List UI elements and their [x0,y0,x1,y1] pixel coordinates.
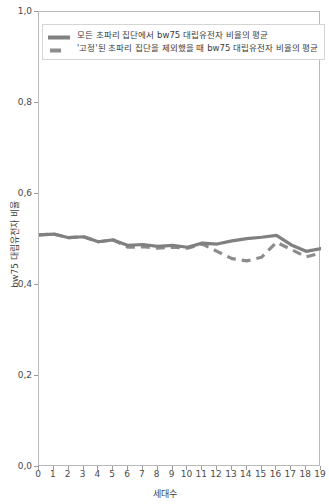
y-tick-label: 1,0 [0,7,32,16]
y-tick-mark [34,193,38,194]
legend-entry-all-populations: 모든 초파리 집단에서 bw75 대립유전자 비율의 평균 [48,29,318,42]
x-tick-mark [201,466,202,470]
x-tick-mark [127,466,128,470]
y-tick-mark [34,375,38,376]
x-tick-mark [231,466,232,470]
y-tick-mark [34,11,38,12]
x-tick-mark [157,466,158,470]
x-tick-mark [83,466,84,470]
x-tick-mark [38,466,39,470]
x-tick-mark [186,466,187,470]
legend-entry-excluding-fixed: '고정'된 초파리 집단을 제외했을 때 bw75 대립유전자 비율의 평균 [48,42,318,55]
x-tick-mark [112,466,113,470]
legend-swatch-dashed-icon [48,42,70,55]
y-tick-label: 0,4 [0,280,32,289]
x-tick-mark [290,466,291,470]
chart-figure: bw75 대립유전자 비율 세대수 모든 초파리 집단에서 bw75 대립유전자… [0,0,329,504]
y-tick-label: 0,6 [0,189,32,198]
series-line-all-populations [39,234,321,251]
x-tick-mark [320,466,321,470]
legend: 모든 초파리 집단에서 bw75 대립유전자 비율의 평균 '고정'된 초파리 … [42,24,325,60]
x-tick-mark [246,466,247,470]
y-tick-mark [34,102,38,103]
legend-label-all-populations: 모든 초파리 집단에서 bw75 대립유전자 비율의 평균 [77,29,268,42]
y-tick-mark [34,284,38,285]
plot-area [38,11,320,466]
x-tick-mark [261,466,262,470]
x-tick-mark [53,466,54,470]
x-tick-mark [216,466,217,470]
legend-label-excluding-fixed: '고정'된 초파리 집단을 제외했을 때 bw75 대립유전자 비율의 평균 [77,42,318,55]
y-tick-label: 0,2 [0,371,32,380]
series-canvas [39,12,321,467]
x-tick-mark [142,466,143,470]
x-tick-mark [305,466,306,470]
x-tick-mark [275,466,276,470]
x-tick-label: 19 [311,470,329,479]
legend-swatch-solid-icon [48,29,70,42]
x-tick-mark [172,466,173,470]
y-tick-label: 0,8 [0,98,32,107]
x-tick-mark [68,466,69,470]
x-axis-title: 세대수 [0,487,329,500]
y-tick-label: 0,0 [0,462,32,471]
x-tick-mark [97,466,98,470]
